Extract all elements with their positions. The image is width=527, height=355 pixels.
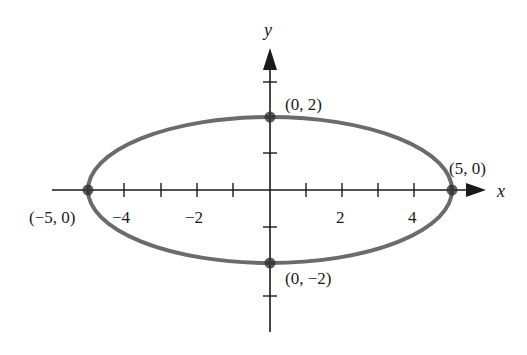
vertex-left <box>83 185 94 196</box>
tick-label-neg2: −2 <box>185 208 203 227</box>
point-label-right: (5, 0) <box>449 159 486 178</box>
vertex-top <box>265 112 276 123</box>
tick-label-4: 4 <box>408 208 417 227</box>
point-label-left: (−5, 0) <box>29 208 75 227</box>
vertex-right <box>447 185 458 196</box>
tick-label-neg4: −4 <box>112 208 131 227</box>
tick-label-2: 2 <box>336 208 345 227</box>
point-label-top: (0, 2) <box>285 95 322 114</box>
x-axis-arrow-icon <box>466 183 486 197</box>
ellipse-figure: y x −4 −2 2 4 (0, 2) (5, 0) (−5, 0) (0, … <box>0 0 527 355</box>
point-label-bottom: (0, −2) <box>285 269 331 288</box>
x-axis-label: x <box>496 181 505 201</box>
x-axis <box>52 183 486 197</box>
chart-canvas: y x −4 −2 2 4 (0, 2) (5, 0) (−5, 0) (0, … <box>0 0 527 355</box>
y-axis-label: y <box>262 20 272 40</box>
vertex-bottom <box>265 258 276 269</box>
y-axis-arrow-icon <box>263 48 277 70</box>
